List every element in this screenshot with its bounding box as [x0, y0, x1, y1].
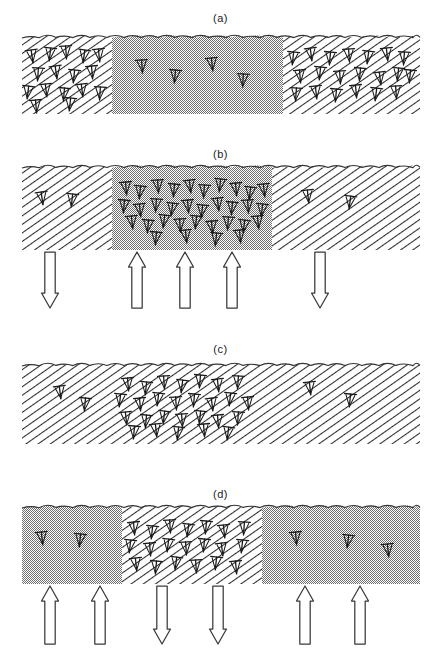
panel-a-center-region: [112, 35, 283, 114]
panel-label-a: (a): [0, 12, 441, 24]
stress-arrow-down: [312, 252, 329, 308]
stress-arrow-up: [352, 586, 369, 644]
dislocation-figure: (a)(b)(c)(d): [0, 0, 441, 669]
stress-arrow-down: [42, 252, 59, 308]
stress-arrow-up: [297, 586, 314, 644]
panel-d-right-region: [262, 505, 420, 584]
panel-c-full-region: [22, 363, 420, 444]
panel-b-left-region: [22, 165, 112, 250]
panel-c-svg: [0, 352, 441, 448]
panel-a-slab: [0, 24, 441, 118]
panel-d-left-region: [22, 505, 122, 584]
panel-b-slab: [0, 154, 441, 254]
panel-d-slab: [0, 494, 441, 588]
stress-arrow-down: [210, 586, 227, 644]
panel-d-center-region: [122, 505, 262, 584]
stress-arrow-up: [129, 252, 146, 308]
panel-a-right-region: [283, 35, 420, 114]
panel-b-right-region: [272, 165, 420, 250]
stress-arrow-up: [92, 586, 109, 644]
panel-a-svg: [0, 24, 441, 118]
panel-c-slab: [0, 352, 441, 448]
stress-arrow-up: [177, 252, 194, 308]
panel-d-svg: [0, 494, 441, 588]
stress-arrow-down: [154, 586, 171, 644]
stress-arrow-up: [224, 252, 241, 308]
panel-b-svg: [0, 154, 441, 254]
stress-arrow-up: [42, 586, 59, 644]
